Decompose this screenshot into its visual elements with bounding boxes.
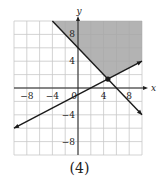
x-axis-arrow-icon xyxy=(143,86,148,90)
figure-caption: (4) xyxy=(0,160,159,176)
y-tick-label: −8 xyxy=(62,137,76,147)
graph: −8−404884−4−8xy xyxy=(0,0,159,160)
x-tick-label: 8 xyxy=(126,91,132,101)
x-axis-label: x xyxy=(151,83,156,93)
y-tick-label: −4 xyxy=(62,110,76,120)
y-axis-arrow-icon xyxy=(76,16,80,21)
y-axis-label: y xyxy=(75,6,82,16)
intersection-point xyxy=(105,76,110,81)
x-tick-label: 4 xyxy=(101,91,107,101)
shaded-region xyxy=(52,21,142,79)
x-tick-label: −8 xyxy=(20,91,34,101)
x-tick-label: −4 xyxy=(46,91,60,101)
x-tick-label: 0 xyxy=(71,91,77,101)
y-tick-label: 8 xyxy=(69,29,75,39)
y-tick-label: 4 xyxy=(69,56,75,66)
